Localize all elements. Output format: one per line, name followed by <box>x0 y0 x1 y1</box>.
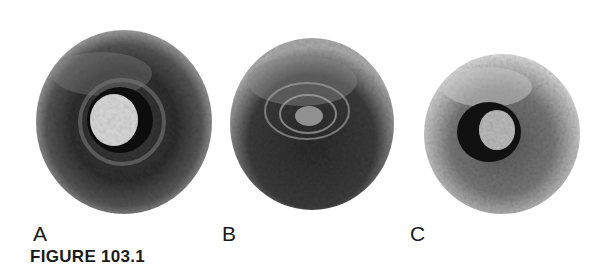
panel-a-image <box>32 22 212 217</box>
panel-c-label: C <box>410 222 425 246</box>
figure-caption: FIGURE 103.1 <box>30 247 145 267</box>
panel-c-image <box>417 52 582 217</box>
panel-b-label: B <box>222 222 236 246</box>
panel-b-image <box>222 26 402 216</box>
panel-a-label: A <box>33 222 47 246</box>
